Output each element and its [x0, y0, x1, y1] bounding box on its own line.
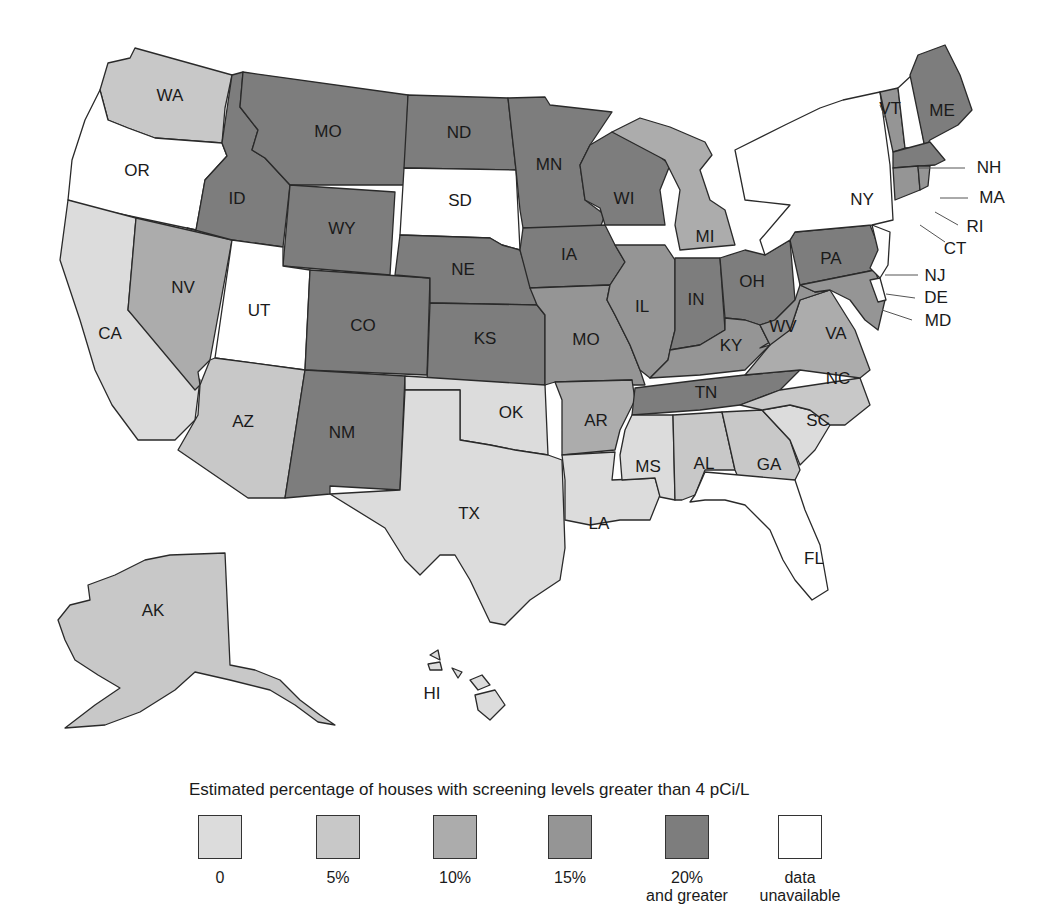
label-DE: DE — [924, 288, 948, 307]
legend-label-20-line2: and greater — [627, 887, 747, 905]
legend-swatch-0 — [198, 815, 242, 859]
legend-title: Estimated percentage of houses with scre… — [189, 780, 749, 800]
legend-label-na-line2: unavailable — [740, 887, 860, 905]
legend-label-na-line1: data — [740, 869, 860, 887]
label-WY: WY — [328, 219, 355, 238]
label-OK: OK — [499, 403, 524, 422]
leader-RI — [935, 212, 958, 225]
label-MA: MA — [979, 188, 1005, 207]
label-MI: MI — [696, 227, 715, 246]
label-KY: KY — [720, 336, 743, 355]
label-NV: NV — [171, 278, 195, 297]
label-PA: PA — [820, 249, 842, 268]
label-ME: ME — [929, 101, 955, 120]
label-ID: ID — [229, 189, 246, 208]
label-TN: TN — [695, 383, 718, 402]
label-NY: NY — [850, 190, 874, 209]
legend-label-0: 0 — [160, 869, 280, 887]
label-VA: VA — [825, 324, 847, 343]
label-IN: IN — [688, 290, 705, 309]
label-CT: CT — [944, 239, 967, 258]
label-MT: MO — [314, 122, 341, 141]
label-SC: SC — [806, 411, 830, 430]
legend-item-5: 5% — [278, 815, 398, 887]
label-MS: MS — [635, 457, 661, 476]
label-AR: AR — [584, 411, 608, 430]
label-LA: LA — [589, 514, 610, 533]
label-OR: OR — [124, 161, 150, 180]
us-radon-map: WA OR CA NV ID MO WY UT AZ CO NM ND SD N… — [0, 0, 1053, 760]
label-AK: AK — [142, 601, 165, 620]
label-IL: IL — [635, 297, 649, 316]
legend-swatch-na — [778, 815, 822, 859]
label-NC: NC — [826, 369, 851, 388]
legend-item-20: 20% and greater — [627, 815, 747, 905]
label-MD: MD — [925, 311, 951, 330]
legend-label-15: 15% — [510, 869, 630, 887]
label-NE: NE — [451, 260, 475, 279]
leader-CT — [920, 225, 945, 242]
label-IA: IA — [561, 245, 578, 264]
label-UT: UT — [248, 301, 271, 320]
label-ND: ND — [447, 123, 472, 142]
legend-item-0: 0 — [160, 815, 280, 887]
label-CA: CA — [98, 324, 122, 343]
leader-DE — [886, 294, 915, 298]
label-MO: MO — [572, 330, 599, 349]
legend-swatch-15 — [548, 815, 592, 859]
legend-label-na: data unavailable — [740, 869, 860, 905]
legend-item-10: 10% — [395, 815, 515, 887]
state-RI — [918, 166, 930, 190]
legend-swatch-5 — [316, 815, 360, 859]
legend-label-20-line1: 20% — [627, 869, 747, 887]
label-CO: CO — [350, 316, 376, 335]
label-AZ: AZ — [232, 412, 254, 431]
legend-swatch-10 — [433, 815, 477, 859]
legend-label-5: 5% — [278, 869, 398, 887]
label-WV: WV — [769, 317, 797, 336]
label-HI: HI — [424, 684, 441, 703]
label-OH: OH — [739, 272, 765, 291]
legend-swatch-20 — [665, 815, 709, 859]
label-VT: VT — [879, 99, 901, 118]
legend-item-15: 15% — [510, 815, 630, 887]
label-AL: AL — [694, 454, 715, 473]
state-FL — [690, 472, 828, 600]
label-MN: MN — [536, 155, 562, 174]
label-GA: GA — [757, 455, 782, 474]
leader-MD — [882, 310, 912, 320]
label-SD: SD — [448, 191, 472, 210]
label-RI: RI — [967, 217, 984, 236]
label-NM: NM — [329, 423, 355, 442]
legend-item-na: data unavailable — [740, 815, 860, 905]
label-NH: NH — [977, 158, 1002, 177]
label-NJ: NJ — [925, 266, 946, 285]
label-FL: FL — [804, 549, 824, 568]
legend-label-10: 10% — [395, 869, 515, 887]
state-AK — [58, 553, 335, 728]
label-WA: WA — [157, 86, 184, 105]
state-CT — [893, 166, 920, 200]
label-KS: KS — [474, 329, 497, 348]
legend-label-20: 20% and greater — [627, 869, 747, 905]
label-WI: WI — [614, 189, 635, 208]
label-TX: TX — [458, 504, 480, 523]
